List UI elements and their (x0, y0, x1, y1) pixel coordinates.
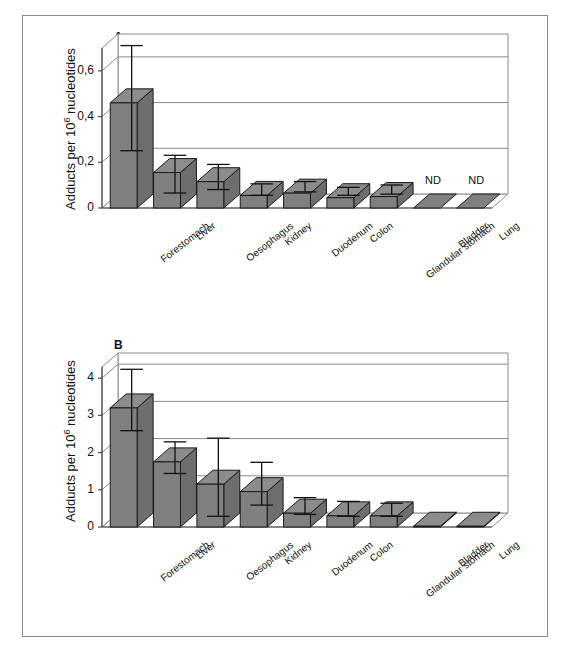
figure-root: A Adducts per 106 nucleotides 00,20,40,6… (0, 0, 570, 656)
chart-panel-b: B Adducts per 106 nucleotides 01234Fores… (0, 310, 570, 620)
bar-front (197, 182, 224, 208)
y-axis-tick-label: 1 (62, 482, 94, 496)
bar-front (370, 516, 397, 527)
y-axis-tick-label: 0,2 (62, 154, 94, 168)
bar-front (110, 408, 137, 527)
bar-front (240, 195, 267, 208)
nd-annotation: ND (425, 174, 441, 186)
bar-front (327, 198, 354, 208)
y-axis-tick-label: 0,6 (62, 63, 94, 77)
bar-front (327, 516, 354, 527)
bar-front (284, 193, 311, 208)
bar-side (137, 89, 153, 208)
bar-front (110, 103, 137, 208)
bar-front (457, 526, 484, 527)
bar-side (137, 394, 153, 527)
y-axis-tick-label: 3 (62, 407, 94, 421)
nd-annotation: ND (468, 174, 484, 186)
bar-front (240, 492, 267, 527)
bar-front (154, 462, 181, 527)
chart-panel-a: A Adducts per 106 nucleotides 00,20,40,6… (0, 0, 570, 310)
y-axis-tick-label: 2 (62, 445, 94, 459)
y-axis-tick-label: 4 (62, 370, 94, 384)
bar-front (154, 173, 181, 208)
chart-svg-b (0, 310, 570, 620)
bar-front (284, 513, 311, 527)
y-axis-tick-label: 0,4 (62, 109, 94, 123)
bar-front (197, 484, 224, 527)
y-axis-tick-label: 0 (62, 519, 94, 533)
bar-front (414, 526, 441, 527)
y-axis-tick-label: 0 (62, 200, 94, 214)
bar-front (370, 197, 397, 208)
